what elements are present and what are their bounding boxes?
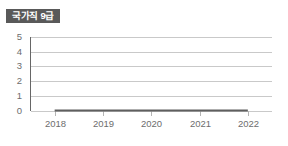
x-axis-tick-label: 2019 <box>93 118 114 129</box>
x-axis-tick-label: 2018 <box>45 118 66 129</box>
plot-area: 012345 20182019202020212022 <box>0 0 288 146</box>
y-axis-tick-label: 4 <box>17 46 22 57</box>
y-axis-tick-label: 2 <box>17 75 22 86</box>
line-chart: 012345 20182019202020212022 <box>0 0 288 146</box>
x-axis-tick-labels: 20182019202020212022 <box>45 118 259 129</box>
x-axis-tick-label: 2020 <box>141 118 162 129</box>
y-axis-tick-label: 5 <box>17 31 22 42</box>
x-axis-tick-label: 2021 <box>190 118 211 129</box>
y-axis-tick-label: 0 <box>17 105 22 116</box>
x-axis-tick-label: 2022 <box>238 118 259 129</box>
y-axis-tick-labels: 012345 <box>17 31 22 116</box>
y-axis-tick-label: 3 <box>17 60 22 71</box>
chart-card: 국가직 9급 012345 20182019202020212022 <box>0 0 288 146</box>
y-axis-tick-label: 1 <box>17 90 22 101</box>
gridlines <box>31 38 273 112</box>
